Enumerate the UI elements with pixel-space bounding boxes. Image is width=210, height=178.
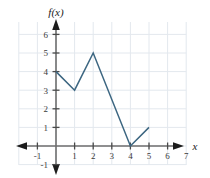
- x-tick-label: 5: [147, 151, 152, 161]
- y-tick-label: 3: [44, 86, 49, 96]
- y-tick-label: 5: [44, 48, 49, 58]
- x-tick-label: 3: [110, 151, 115, 161]
- figure-background: [0, 0, 210, 178]
- plot-canvas: -1 1 2 3 4 5 6 7 -1 1 2 3 4 5 6 f(x) x: [0, 0, 210, 178]
- y-tick-label: -1: [41, 160, 49, 170]
- y-tick-label: 1: [44, 123, 49, 133]
- x-tick-label: 6: [165, 151, 170, 161]
- x-tick-label: 1: [72, 151, 77, 161]
- x-tick-label: 4: [128, 151, 133, 161]
- y-axis-label: f(x): [48, 6, 64, 19]
- x-tick-label: 7: [184, 151, 189, 161]
- y-tick-label: 4: [44, 67, 49, 77]
- y-tick-label: 2: [44, 104, 49, 114]
- function-graph-figure: -1 1 2 3 4 5 6 7 -1 1 2 3 4 5 6 f(x) x: [0, 0, 210, 178]
- x-axis-label: x: [192, 140, 198, 152]
- x-tick-label: 2: [91, 151, 96, 161]
- y-tick-label: 6: [44, 30, 49, 40]
